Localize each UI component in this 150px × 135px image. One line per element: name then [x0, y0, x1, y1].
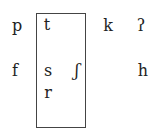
segment-t: t: [44, 17, 50, 33]
segment-k: k: [103, 18, 113, 34]
segment-h: h: [138, 63, 148, 79]
segment-p: p: [12, 18, 22, 34]
segment-r: r: [44, 85, 52, 101]
segment-f: f: [12, 63, 18, 79]
segment-s: s: [44, 63, 52, 79]
segment-glottal-stop: ʔ: [137, 18, 146, 34]
segment-esh: ʃ: [75, 63, 79, 79]
